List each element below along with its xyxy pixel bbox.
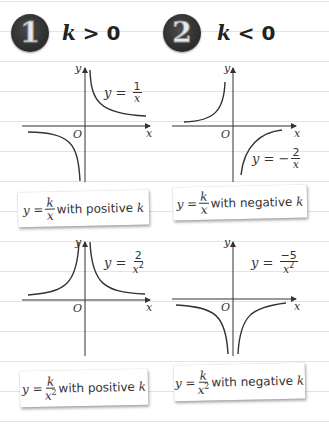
y-axis-label: y xyxy=(224,236,230,249)
x-axis-label: x xyxy=(146,301,152,314)
card-text: with positive xyxy=(58,380,135,396)
card-fraction: k x2 xyxy=(197,370,209,396)
card-fraction: k x2 xyxy=(44,376,56,402)
origin-label: O xyxy=(73,128,82,141)
card-var: k xyxy=(297,374,305,388)
equation-label-4: y = −5 x2 xyxy=(251,250,300,275)
eq-fraction: −5 x2 xyxy=(280,250,298,275)
card-den-var: x xyxy=(47,209,54,223)
card-denominator: x xyxy=(201,204,208,216)
x-axis-label: x xyxy=(146,127,152,140)
card-text: with negative xyxy=(210,194,292,210)
equation-label-3: y = 2 x2 xyxy=(104,250,146,275)
eq-denominator: x2 xyxy=(283,262,294,275)
eq-denominator: x2 xyxy=(133,262,144,275)
y-axis-label: y xyxy=(75,236,81,249)
caption-card-2: y = k x with negative k xyxy=(173,185,308,221)
card-lhs: y = xyxy=(23,202,44,216)
card-lhs: y = xyxy=(176,196,197,210)
origin-label: O xyxy=(221,128,230,141)
caption-card-4: y = k x2 with negative k xyxy=(174,363,306,402)
eq-fraction: 2 x2 xyxy=(133,250,144,275)
eq-fraction: 2 x xyxy=(291,147,300,170)
card-denominator: x2 xyxy=(197,383,209,396)
card-fraction: k x xyxy=(199,191,209,216)
card-text: with positive xyxy=(57,200,134,216)
equation-label-1: y = 1 x xyxy=(104,81,144,104)
card-fraction: k x xyxy=(45,197,55,222)
eq-denominator: x xyxy=(293,159,299,170)
caption-card-1: y = k x with positive k xyxy=(18,190,150,228)
eq-lhs: y = xyxy=(104,85,126,100)
card-var: k xyxy=(296,194,304,208)
eq-denominator: x xyxy=(134,93,140,104)
card-lhs: y = xyxy=(22,382,43,396)
caption-card-3: y = k x2 with positive k xyxy=(20,369,149,408)
card-denominator: x xyxy=(47,210,54,222)
card-denominator: x2 xyxy=(45,389,57,402)
eq-power: 2 xyxy=(139,261,144,270)
eq-lhs: y = xyxy=(251,255,273,270)
eq-den-var: x xyxy=(293,158,299,171)
origin-label: O xyxy=(221,301,230,314)
eq-power: 2 xyxy=(289,261,294,270)
card-power: 2 xyxy=(204,382,209,391)
origin-label: O xyxy=(73,302,82,315)
eq-fraction: 1 x xyxy=(133,81,142,104)
x-axis-label: x xyxy=(294,300,300,313)
eq-sign: − xyxy=(279,151,290,166)
x-axis-label: x xyxy=(294,127,300,140)
y-axis-label: y xyxy=(75,62,81,75)
card-den-var: x xyxy=(200,203,207,217)
card-var: k xyxy=(139,380,147,394)
equation-label-2: y = − 2 x xyxy=(252,147,302,170)
eq-lhs: y = xyxy=(104,255,126,270)
eq-lhs: y = xyxy=(252,151,274,166)
y-axis-label: y xyxy=(224,62,230,75)
eq-den-var: x xyxy=(134,92,140,105)
card-var: k xyxy=(137,200,145,214)
card-power: 2 xyxy=(51,388,56,397)
card-text: with negative xyxy=(211,374,293,390)
card-lhs: y = xyxy=(175,376,196,390)
